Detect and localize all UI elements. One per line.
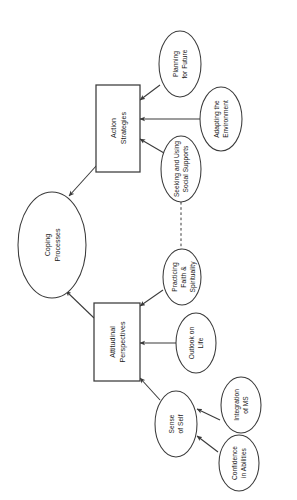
planning-for-future-label-line1: Planning — [172, 51, 180, 77]
outlook-on-life-label-line1: Outlook on — [188, 327, 195, 360]
coping-processes-ellipse — [18, 192, 86, 298]
seeking-social-supports-label-line2: Social Supports — [182, 145, 190, 193]
confidence-in-abilities-label-line2: in Abilities — [240, 447, 247, 478]
node-planning-for-future[interactable]: Planning for Future — [159, 31, 201, 97]
node-adapting-the-environment[interactable]: Adapting the Environment — [200, 87, 242, 151]
node-outlook-on-life[interactable]: Outlook on Life — [176, 313, 216, 373]
coping-processes-label-line1: Coping — [44, 234, 52, 257]
integration-of-ms-label-line1: Integration — [233, 389, 241, 421]
outlook-on-life-label-line2: Life — [197, 337, 204, 348]
node-action-strategies[interactable]: Action Strategies — [96, 85, 140, 172]
edge-integration-of-ms-to-sense-of-self — [197, 409, 220, 420]
edge-action-strategies-to-coping-processes — [69, 165, 97, 196]
adapting-the-environment-label-line1: Adapting the — [213, 100, 221, 138]
node-practicing-faith[interactable]: Practicing Faith & Spirituality — [163, 249, 201, 305]
planning-for-future-label-line2: for Future — [181, 49, 188, 78]
practicing-faith-label-line2: Faith & — [180, 266, 187, 288]
diagram-canvas: Coping Processes Action Strategies Attit… — [0, 0, 297, 500]
attitudinal-perspectives-label-line1: Attitudinal — [109, 326, 117, 358]
edge-attitudinal-perspectives-to-coping-processes — [66, 291, 94, 318]
integration-of-ms-label-line2: of MS — [242, 396, 249, 414]
practicing-faith-label-line1: Practicing — [171, 262, 179, 292]
attitudinal-perspectives-label-line2: Perspectives — [119, 321, 127, 363]
node-attitudinal-perspectives[interactable]: Attitudinal Perspectives — [94, 303, 140, 381]
seeking-social-supports-label-line1: Seeking and Using — [173, 141, 181, 197]
sense-of-self-label-line2: of Self — [177, 414, 184, 433]
action-strategies-label-line1: Action — [110, 118, 118, 138]
edge-seeking-social-supports-to-action-strategies — [140, 139, 164, 153]
action-strategies-label-line2: Strategies — [120, 111, 128, 144]
node-confidence-in-abilities[interactable]: Confidence in Abilities — [219, 435, 259, 491]
coping-processes-diagram: Coping Processes Action Strategies Attit… — [0, 0, 297, 500]
node-integration-of-ms[interactable]: Integration of MS — [221, 377, 261, 433]
edge-planning-for-future-to-action-strategies — [140, 85, 160, 100]
node-sense-of-self[interactable]: Sense of Self — [155, 391, 197, 457]
practicing-faith-label-line3: Spirituality — [189, 261, 197, 293]
edge-sense-of-self-to-attitudinal-perspectives — [140, 378, 160, 400]
confidence-in-abilities-label-line1: Confidence — [231, 446, 238, 480]
node-seeking-social-supports[interactable]: Seeking and Using Social Supports — [161, 136, 201, 202]
edge-confidence-in-abilities-to-sense-of-self — [197, 436, 218, 452]
node-coping-processes[interactable]: Coping Processes — [18, 192, 86, 298]
attitudinal-perspectives-box — [94, 303, 140, 381]
adapting-the-environment-label-line2: Environment — [222, 100, 229, 138]
action-strategies-box — [96, 85, 140, 172]
edge-practicing-faith-to-attitudinal-perspectives — [140, 290, 163, 306]
coping-processes-label-line2: Processes — [54, 228, 62, 262]
sense-of-self-label-line1: Sense — [168, 414, 175, 433]
